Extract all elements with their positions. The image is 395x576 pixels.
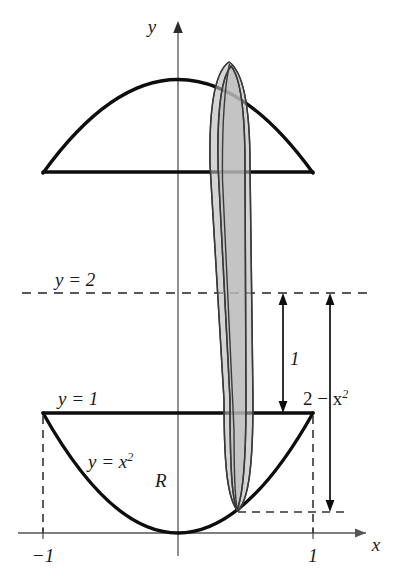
dimension-arrow-one-head-up: [279, 293, 288, 305]
dimension-arrow-shell-height-head-down: [326, 500, 335, 512]
y-axis-arrowhead: [173, 21, 183, 33]
label-region-r: R: [154, 470, 167, 491]
dimension-arrow-shell-height-head-up: [326, 293, 335, 305]
label-y-equals-x-squared-base: y = x: [86, 451, 128, 472]
label-dimension-one: 1: [290, 348, 300, 369]
x-axis-label: x: [371, 534, 381, 555]
label-y-equals-1: y = 1: [56, 388, 98, 409]
label-dimension-shell-height: 2 − x2: [303, 387, 348, 409]
y-axis-label: y: [146, 16, 157, 37]
label-shell-height-exponent: 2: [342, 387, 348, 401]
labels-group: y x −1 1 y = 2 y = 1 y = x2 R 1 2 − x2: [32, 16, 381, 566]
x-tick-label-minus-one: −1: [32, 545, 54, 566]
label-shell-height-base: 2 − x: [303, 388, 343, 409]
shell-method-figure: y x −1 1 y = 2 y = 1 y = x2 R 1 2 − x2: [0, 0, 395, 576]
cylindrical-shell-group: [210, 62, 253, 511]
x-axis-arrowhead: [355, 529, 366, 538]
dimension-arrow-one-head-down: [279, 401, 288, 413]
label-y-equals-2: y = 2: [53, 269, 96, 290]
diagram-canvas: y x −1 1 y = 2 y = 1 y = x2 R 1 2 − x2: [0, 0, 395, 576]
label-y-equals-x-squared-exponent: 2: [127, 450, 133, 464]
label-y-equals-x-squared: y = x2: [86, 450, 133, 472]
x-tick-label-one: 1: [308, 545, 318, 566]
